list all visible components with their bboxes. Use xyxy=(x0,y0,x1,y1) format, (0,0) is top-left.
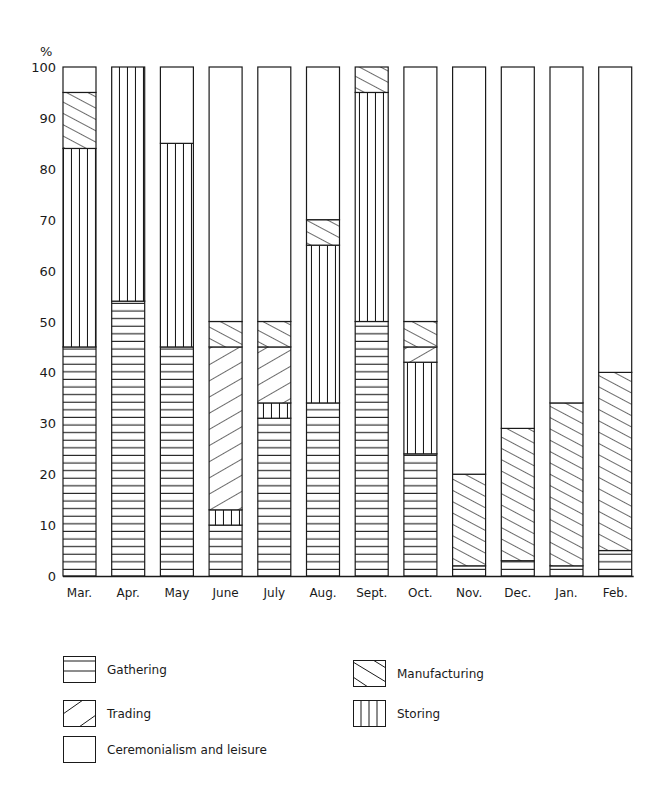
x-tick-label: Apr. xyxy=(116,586,139,600)
segment-manufacturing xyxy=(599,372,632,550)
segment-manufacturing xyxy=(258,322,291,347)
segment-ceremonialism xyxy=(307,67,340,220)
segment-ceremonialism xyxy=(501,67,534,428)
segment-manufacturing xyxy=(501,428,534,560)
y-axis: %0102030405060708090100 xyxy=(31,44,56,584)
x-tick-label: Jan. xyxy=(554,586,577,600)
segment-manufacturing xyxy=(209,322,242,347)
x-tick-label: June xyxy=(212,586,239,600)
segment-ceremonialism xyxy=(550,67,583,403)
segment-trading xyxy=(209,347,242,510)
x-tick-label: Nov. xyxy=(456,586,482,600)
x-axis: Mar.Apr.MayJuneJulyAug.Sept.Oct.Nov.Dec.… xyxy=(63,577,634,601)
segment-gathering xyxy=(404,454,437,576)
segment-ceremonialism xyxy=(209,67,242,322)
segment-storing xyxy=(258,403,291,418)
segment-ceremonialism xyxy=(63,67,96,92)
segment-gathering xyxy=(599,551,632,576)
segment-gathering xyxy=(501,561,534,576)
x-tick-label: Dec. xyxy=(504,586,531,600)
segment-ceremonialism xyxy=(160,67,193,143)
segment-gathering xyxy=(307,403,340,576)
x-tick-label: Sept. xyxy=(356,586,387,600)
y-tick-label: 40 xyxy=(39,365,56,380)
segment-manufacturing xyxy=(355,67,388,92)
segment-storing xyxy=(307,245,340,403)
segment-gathering xyxy=(258,418,291,576)
y-tick-label: 60 xyxy=(39,264,56,279)
segment-gathering xyxy=(355,322,388,577)
y-tick-label: 100 xyxy=(31,60,56,75)
bar-aug xyxy=(307,67,340,576)
y-tick-label: 20 xyxy=(39,467,56,482)
bar-jan xyxy=(550,67,583,576)
x-tick-label: Mar. xyxy=(67,586,92,600)
segment-gathering xyxy=(63,347,96,576)
bar-july xyxy=(258,67,291,576)
segment-gathering xyxy=(453,566,486,576)
y-tick-label: 90 xyxy=(39,111,56,126)
segment-storing xyxy=(209,510,242,525)
y-tick-label: 30 xyxy=(39,416,56,431)
segment-storing xyxy=(112,67,145,301)
bar-oct xyxy=(404,67,437,576)
x-tick-label: May xyxy=(164,586,189,600)
segment-manufacturing xyxy=(453,474,486,566)
y-unit-label: % xyxy=(40,44,52,59)
x-tick-label: Aug. xyxy=(309,586,336,600)
segment-manufacturing xyxy=(404,322,437,347)
segment-storing xyxy=(404,362,437,454)
bar-nov xyxy=(453,67,486,576)
segment-manufacturing xyxy=(63,92,96,148)
segment-gathering xyxy=(160,347,193,576)
bar-dec xyxy=(501,67,534,576)
y-tick-label: 0 xyxy=(48,569,56,584)
y-tick-label: 70 xyxy=(39,213,56,228)
segment-gathering xyxy=(550,566,583,576)
segment-ceremonialism xyxy=(404,67,437,322)
y-tick-label: 50 xyxy=(39,315,56,330)
segment-ceremonialism xyxy=(453,67,486,474)
x-tick-label: Feb. xyxy=(603,586,628,600)
x-tick-label: July xyxy=(263,586,286,600)
segment-trading xyxy=(258,347,291,403)
bar-mar xyxy=(63,67,96,576)
segment-manufacturing xyxy=(550,403,583,566)
bar-may xyxy=(160,67,193,576)
bar-feb xyxy=(599,67,632,576)
segment-trading xyxy=(404,347,437,362)
segment-manufacturing xyxy=(307,220,340,245)
bar-apr xyxy=(112,67,145,576)
segment-gathering xyxy=(112,301,145,576)
stacked-bar-chart: %0102030405060708090100 Mar.Apr.MayJuneJ… xyxy=(0,0,665,785)
bar-sept xyxy=(355,67,388,576)
bar-june xyxy=(209,67,242,576)
y-tick-label: 10 xyxy=(39,518,56,533)
segment-ceremonialism xyxy=(258,67,291,322)
x-tick-label: Oct. xyxy=(408,586,433,600)
segment-gathering xyxy=(209,525,242,576)
bars xyxy=(63,67,632,576)
segment-storing xyxy=(355,92,388,321)
segment-storing xyxy=(63,148,96,347)
y-tick-label: 80 xyxy=(39,162,56,177)
segment-ceremonialism xyxy=(599,67,632,372)
segment-storing xyxy=(160,143,193,347)
